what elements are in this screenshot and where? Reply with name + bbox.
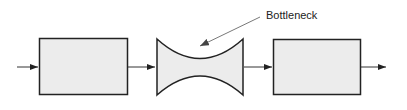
bottleneck-diagram: Bottleneck [0,0,407,110]
bottleneck-leader-line [200,17,260,46]
stage-1-box [40,39,128,95]
diagram-svg: Bottleneck [0,0,407,110]
bottleneck-label: Bottleneck [266,9,318,21]
stage-3-box [274,40,361,95]
bottleneck-shape [157,39,243,95]
